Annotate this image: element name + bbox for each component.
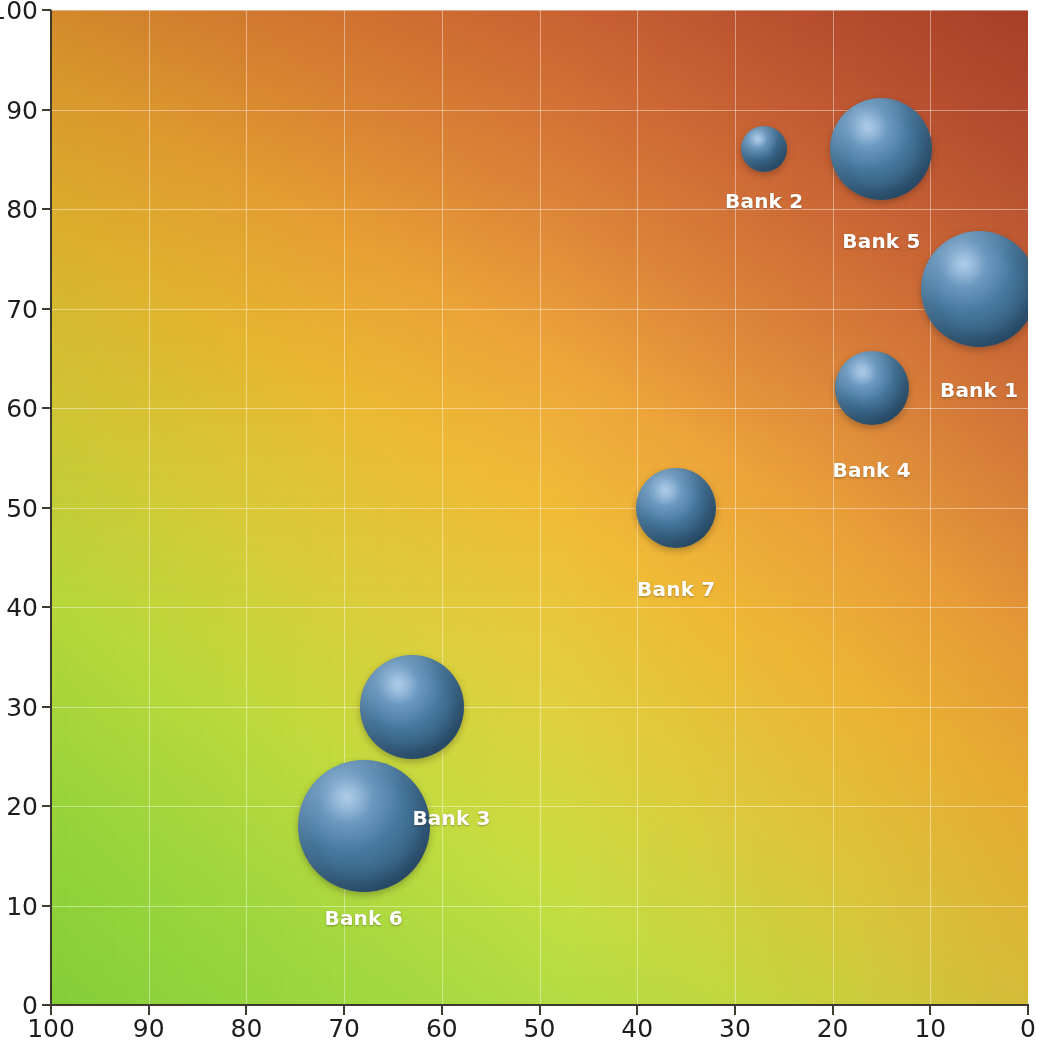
x-tick-label: 30	[719, 1014, 751, 1043]
bubble-bank-4[interactable]	[835, 351, 909, 425]
bubble-label-bank-5: Bank 5	[842, 229, 920, 253]
y-tick-label: 90	[6, 95, 38, 124]
bubble-chart: Bank 1Bank 2Bank 3Bank 4Bank 5Bank 6Bank…	[0, 0, 1041, 1047]
y-tick-mark	[42, 805, 51, 807]
gridline-horizontal	[51, 209, 1028, 210]
y-tick-mark	[42, 407, 51, 409]
bubble-label-bank-2: Bank 2	[725, 189, 803, 213]
bubble-bank-7[interactable]	[636, 468, 716, 548]
x-tick-label: 60	[426, 1014, 458, 1043]
x-tick-label: 10	[914, 1014, 946, 1043]
x-tick-label: 40	[621, 1014, 653, 1043]
x-tick-label: 70	[328, 1014, 360, 1043]
y-tick-mark	[42, 905, 51, 907]
y-tick-label: 20	[6, 792, 38, 821]
y-tick-label: 30	[6, 692, 38, 721]
plot-area: Bank 1Bank 2Bank 3Bank 4Bank 5Bank 6Bank…	[51, 10, 1028, 1005]
bubble-label-bank-7: Bank 7	[637, 577, 715, 601]
gridline-horizontal	[51, 508, 1028, 509]
y-tick-mark	[42, 9, 51, 11]
bubble-label-bank-3: Bank 3	[412, 806, 490, 830]
x-tick-label: 0	[1020, 1014, 1036, 1043]
bubble-bank-3[interactable]	[360, 655, 464, 759]
y-tick-label: 50	[6, 493, 38, 522]
gridline-horizontal	[51, 906, 1028, 907]
bubble-label-bank-6: Bank 6	[324, 906, 402, 930]
x-tick-label: 50	[524, 1014, 556, 1043]
gridline-horizontal	[51, 309, 1028, 310]
y-tick-mark	[42, 208, 51, 210]
x-tick-label: 100	[27, 1014, 75, 1043]
y-tick-mark	[42, 109, 51, 111]
y-tick-label: 80	[6, 195, 38, 224]
y-tick-mark	[42, 606, 51, 608]
y-tick-mark	[42, 706, 51, 708]
y-tick-mark	[42, 507, 51, 509]
x-tick-label: 90	[133, 1014, 165, 1043]
bubble-bank-5[interactable]	[830, 98, 932, 200]
y-tick-label: 70	[6, 294, 38, 323]
bubble-label-bank-1: Bank 1	[940, 378, 1018, 402]
bubble-label-bank-4: Bank 4	[832, 458, 910, 482]
gridline-horizontal	[51, 10, 1028, 11]
y-tick-mark	[42, 308, 51, 310]
x-tick-label: 20	[817, 1014, 849, 1043]
gridline-horizontal	[51, 707, 1028, 708]
gridline-horizontal	[51, 607, 1028, 608]
x-tick-label: 80	[230, 1014, 262, 1043]
y-tick-label: 100	[0, 0, 38, 25]
bubble-bank-6[interactable]	[298, 760, 430, 892]
gridline-horizontal	[51, 806, 1028, 807]
bubble-bank-1[interactable]	[921, 231, 1028, 347]
y-tick-label: 10	[6, 891, 38, 920]
y-tick-label: 60	[6, 394, 38, 423]
y-tick-label: 40	[6, 593, 38, 622]
